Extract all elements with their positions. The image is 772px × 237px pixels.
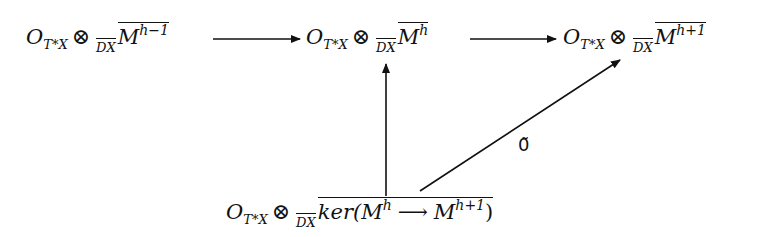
node-d: OT*X⊗DXker(Mh⟶Mh+1) (226, 201, 493, 223)
sheaf-subscript: T*X (580, 37, 604, 52)
sheaf-subscript: T*X (43, 37, 67, 52)
module-superscript: h (383, 197, 392, 213)
sheaf-subscript: T*X (323, 37, 347, 52)
node-c: OT*X⊗DXMh+1 (563, 26, 706, 48)
arrow-label-zero-tilde: 0̃ (518, 134, 529, 155)
module-symbol: M (398, 25, 420, 49)
sheaf-symbol: O (306, 25, 323, 49)
sheaf-symbol: O (563, 25, 580, 49)
sheaf-symbol: O (26, 25, 43, 49)
kernel-label: ker( (318, 200, 361, 224)
ring-symbol: D (633, 40, 643, 55)
ring-symbol: D (296, 215, 306, 230)
module-superscript: h+1 (676, 22, 706, 38)
ring-symbol: D (96, 40, 106, 55)
node-b: OT*X⊗DXMh (306, 26, 428, 48)
module-symbol: M (118, 25, 140, 49)
ring-subscript: X (107, 40, 116, 55)
tensor-symbol: ⊗ (72, 24, 90, 49)
ring-symbol: D (376, 40, 386, 55)
ring-subscript: X (307, 215, 316, 230)
sheaf-symbol: O (226, 200, 243, 224)
module-symbol: M (361, 200, 383, 224)
tensor-symbol: ⊗ (609, 24, 627, 49)
module-symbol: M (434, 200, 456, 224)
module-symbol: M (655, 25, 677, 49)
ring-subscript: X (387, 40, 396, 55)
tensor-symbol: ⊗ (352, 24, 370, 49)
ring-subscript: X (644, 40, 653, 55)
tensor-symbol: ⊗ (272, 199, 290, 224)
module-superscript: h−1 (139, 22, 169, 38)
close-paren: ) (485, 200, 493, 224)
arrow-d-to-c (420, 60, 620, 191)
node-a: OT*X⊗DXMh−1 (26, 26, 169, 48)
module-superscript: h+1 (455, 197, 485, 213)
module-superscript: h (419, 22, 428, 38)
inner-arrow: ⟶ (398, 200, 428, 224)
sheaf-subscript: T*X (243, 212, 267, 227)
